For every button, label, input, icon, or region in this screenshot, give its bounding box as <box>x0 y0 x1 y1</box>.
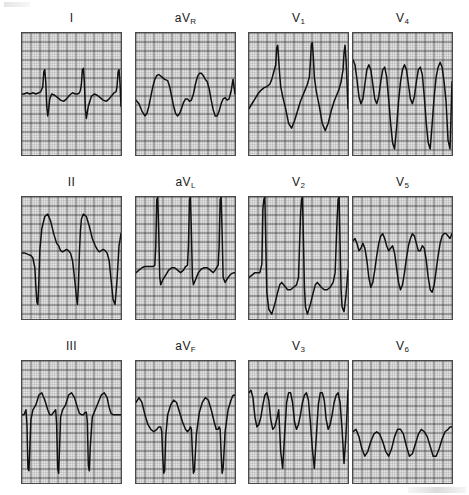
lead-panel-aVF: aVF <box>135 340 236 486</box>
lead-label-aVL: aVL <box>135 176 236 190</box>
lead-label-I: I <box>21 12 122 25</box>
ecg-grid-aVR <box>135 32 236 156</box>
lead-panel-I: I <box>21 12 122 158</box>
lead-label-V4: V4 <box>352 12 453 26</box>
ecg-grid-V3 <box>248 360 349 484</box>
lead-panel-III: III <box>21 340 122 486</box>
lead-panel-II: II <box>21 176 122 322</box>
lead-label-II: II <box>21 176 122 189</box>
scan-artifact-top-left <box>4 2 30 7</box>
lead-label-aVF: aVF <box>135 340 236 354</box>
ecg-grid-aVL <box>135 196 236 320</box>
ecg-grid-III <box>21 360 122 484</box>
ecg-grid-I <box>21 32 122 156</box>
lead-panel-V5: V5 <box>352 176 453 322</box>
lead-label-III: III <box>21 340 122 353</box>
ecg-grid-aVF <box>135 360 236 484</box>
lead-panel-V4: V4 <box>352 12 453 158</box>
scan-artifact-bottom-right <box>408 487 466 493</box>
lead-panel-V3: V3 <box>248 340 349 486</box>
lead-label-V6: V6 <box>352 340 453 354</box>
ecg-grid-II <box>21 196 122 320</box>
lead-label-V5: V5 <box>352 176 453 190</box>
lead-panel-aVL: aVL <box>135 176 236 322</box>
lead-label-V3: V3 <box>248 340 349 354</box>
lead-panel-V1: V1 <box>248 12 349 158</box>
ecg-grid-V5 <box>352 196 453 320</box>
ecg-figure: I aVR V1 V4 II aVL V2 <box>0 0 469 495</box>
lead-panel-V2: V2 <box>248 176 349 322</box>
lead-label-aVR: aVR <box>135 12 236 26</box>
lead-panel-aVR: aVR <box>135 12 236 158</box>
ecg-grid-V6 <box>352 360 453 484</box>
lead-label-V2: V2 <box>248 176 349 190</box>
ecg-grid-V4 <box>352 32 453 156</box>
lead-label-V1: V1 <box>248 12 349 26</box>
lead-panel-V6: V6 <box>352 340 453 486</box>
ecg-grid-V2 <box>248 196 349 320</box>
ecg-grid-V1 <box>248 32 349 156</box>
